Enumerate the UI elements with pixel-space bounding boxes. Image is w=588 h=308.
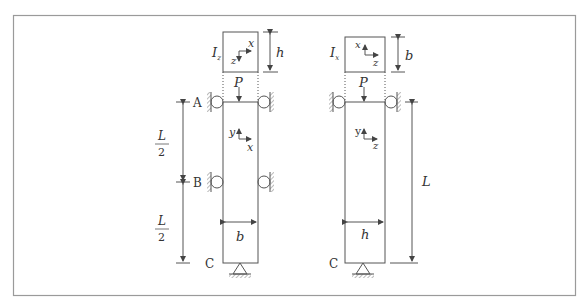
left-local-axis-x: x [247, 141, 254, 154]
svg-text:L: L [157, 129, 166, 143]
right-load-label: P [358, 75, 368, 90]
svg-text:2: 2 [158, 231, 165, 244]
right-span-label: L [421, 174, 431, 189]
column-buckling-diagram: Iz x z h P A B C y x b L 2 L 2 [0, 0, 588, 308]
support-b-label: B [193, 176, 202, 190]
figure-frame [14, 16, 576, 296]
left-load-label: P [233, 75, 243, 90]
left-section-axis-x: x [248, 37, 255, 50]
upper-half-span-label: L 2 [155, 129, 169, 159]
right-depth-label: b [405, 48, 413, 63]
right-width-label: h [361, 227, 369, 242]
right-section-axis-x: x [355, 39, 361, 50]
left-width-label: b [236, 229, 244, 244]
svg-text:2: 2 [158, 146, 165, 159]
lower-half-span-label: L 2 [155, 214, 169, 244]
right-local-axis-y: y [354, 125, 362, 138]
left-base-label: C [205, 257, 214, 271]
left-depth-label: h [276, 45, 284, 60]
right-section-inertia: Ix [329, 45, 339, 62]
left-section-inertia: Iz [211, 45, 221, 62]
support-a-label: A [192, 96, 202, 110]
right-base-label: C [329, 257, 338, 271]
left-section-axis-z: z [230, 55, 237, 66]
right-section-axis-z: z [372, 57, 379, 68]
left-local-axis-y: y [228, 126, 236, 139]
svg-text:L: L [157, 214, 166, 228]
right-local-axis-z: z [372, 140, 379, 151]
left-column-diagram [176, 32, 278, 278]
right-column-diagram [329, 37, 418, 278]
